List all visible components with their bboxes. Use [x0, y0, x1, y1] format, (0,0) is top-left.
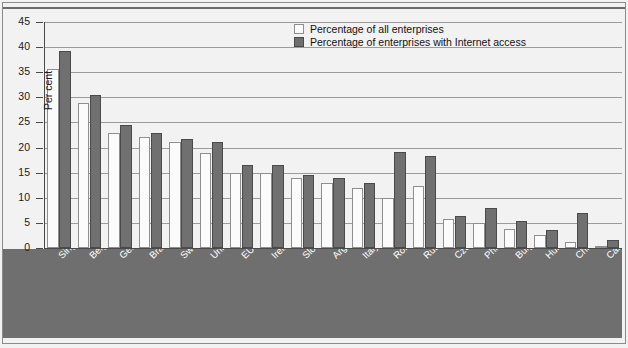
x-axis-category-label: Chile (5) [573, 249, 606, 261]
bar-all-enterprises [443, 219, 455, 248]
bar-all-enterprises [108, 133, 120, 249]
bar-all-enterprises [260, 173, 272, 248]
y-axis-tick-mark [36, 248, 43, 249]
bar-all-enterprises [139, 137, 151, 248]
bar-internet-access [577, 213, 589, 248]
bar-all-enterprises [169, 142, 181, 248]
gridline [44, 97, 622, 98]
bar-all-enterprises [321, 183, 333, 248]
legend-swatch-light [294, 24, 304, 34]
bar-internet-access [272, 165, 284, 248]
bar-internet-access [546, 230, 558, 248]
bar-internet-access [394, 152, 406, 248]
y-axis-tick-mark [36, 223, 43, 224]
y-axis-tick-label: 0 [4, 241, 30, 253]
gridline [44, 122, 622, 123]
legend-item: Percentage of all enterprises [294, 22, 526, 35]
bar-all-enterprises [473, 223, 485, 248]
bar-internet-access [212, 142, 224, 248]
y-axis-tick-label: 30 [4, 90, 30, 102]
y-axis-tick-mark [36, 198, 43, 199]
bar-all-enterprises [382, 198, 394, 248]
bar-internet-access [90, 95, 102, 248]
bar-internet-access [607, 240, 619, 248]
y-axis-tick-mark [36, 122, 43, 123]
category-band-filler [3, 249, 44, 338]
y-axis-tick-label: 10 [4, 191, 30, 203]
x-axis-category-label: Belgium [87, 249, 119, 261]
bar-all-enterprises [230, 173, 242, 248]
x-axis-category-label: Slovenia [300, 249, 334, 261]
bar-internet-access [59, 51, 71, 248]
bar-all-enterprises [352, 188, 364, 248]
bar-internet-access [425, 156, 437, 248]
y-axis-tick-label: 25 [4, 115, 30, 127]
y-axis-tick-label: 5 [4, 216, 30, 228]
chart-container: 454035302520151050 Per cent Percentage o… [0, 0, 628, 348]
bar-all-enterprises [504, 229, 516, 248]
bar-internet-access [120, 125, 132, 248]
x-axis-category-label: Sweden [178, 249, 210, 261]
bar-all-enterprises [291, 178, 303, 248]
bar-all-enterprises [413, 186, 425, 248]
y-axis-tick-label: 40 [4, 40, 30, 52]
bar-internet-access [303, 175, 315, 248]
bar-internet-access [455, 216, 467, 248]
y-axis-tick-label: 20 [4, 141, 30, 153]
frame-top-rule [3, 7, 625, 9]
bar-all-enterprises [200, 153, 212, 248]
y-axis-tick-mark [36, 173, 43, 174]
bar-all-enterprises [595, 246, 607, 248]
chart-legend: Percentage of all enterprisesPercentage … [294, 22, 526, 48]
legend-label: Percentage of enterprises with Internet … [310, 36, 526, 48]
plot-area: 454035302520151050 Per cent [44, 22, 622, 248]
y-axis-tick-label: 45 [4, 15, 30, 27]
x-axis-category-label: Italy [360, 249, 380, 261]
y-axis-tick-label: 35 [4, 65, 30, 77]
y-axis-title: Per cent [42, 71, 54, 110]
y-axis-tick-label: 15 [4, 166, 30, 178]
y-axis-tick-mark [36, 148, 43, 149]
x-axis-category-label: Ireland [269, 249, 298, 261]
y-axis-tick-mark [36, 22, 43, 23]
category-band: SingaporeBelgiumGermanyBrazilSwedenUnite… [44, 249, 622, 338]
legend-item: Percentage of enterprises with Internet … [294, 35, 526, 48]
bar-internet-access [242, 165, 254, 248]
x-axis-category-label: Cameroon [604, 249, 622, 261]
bar-internet-access [516, 221, 528, 248]
bar-internet-access [333, 178, 345, 248]
bar-internet-access [151, 133, 163, 249]
x-axis-category-label: Brazil [147, 249, 172, 261]
legend-label: Percentage of all enterprises [310, 23, 444, 35]
y-axis-tick-mark [36, 47, 43, 48]
bar-internet-access [181, 139, 193, 248]
bar-internet-access [364, 183, 376, 248]
y-axis-line [44, 22, 45, 249]
bar-all-enterprises [565, 242, 577, 248]
x-axis-category-label: Hungary [543, 249, 576, 261]
gridline [44, 72, 622, 73]
bar-internet-access [485, 208, 497, 248]
bar-all-enterprises [534, 235, 546, 248]
x-axis-category-label: Argentina (1) (2) [330, 249, 387, 261]
bar-all-enterprises [78, 103, 90, 248]
legend-swatch-dark [294, 37, 304, 47]
